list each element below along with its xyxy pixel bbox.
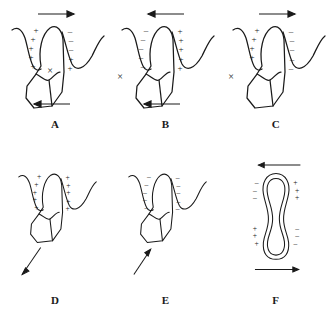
tooth-inner-line: [49, 80, 52, 106]
charge-column-left: –– –– –: [138, 25, 149, 71]
panel-label-a: A: [0, 118, 110, 130]
panel-e-drawing: –– –– – ––– ––: [110, 155, 220, 293]
tooth-inner-line: [270, 80, 273, 106]
tooth-inner-line: [159, 80, 162, 106]
tooth-inner-contour: [149, 212, 169, 219]
charge-quadrant-bottom-left: +++: [252, 223, 258, 247]
charge-column-right-upper: –––: [67, 26, 74, 54]
panel-label-f: F: [221, 294, 331, 306]
svg-text:+: +: [65, 204, 69, 213]
tooth-inner-line: [50, 218, 53, 240]
panel-d: ++ ++ + +++ ++ D: [0, 155, 110, 309]
charge-column-right-lower: ––: [287, 54, 294, 73]
svg-text:–: –: [144, 202, 149, 211]
svg-text:+: +: [179, 44, 184, 54]
arrow-down-left: [22, 247, 41, 274]
panel-c: ++ ++ ––– –– × C: [221, 0, 331, 155]
figure-container: ++ ++ + ––– ++ × A: [0, 0, 331, 309]
tooth-inner-line: [160, 218, 163, 240]
panel-f-drawing: ––– +++ +++ –––: [221, 155, 331, 293]
svg-text:–: –: [287, 63, 293, 73]
resorption-mark: ×: [118, 71, 124, 82]
svg-text:–: –: [252, 193, 257, 202]
charge-column-left: –– –– –: [142, 172, 151, 211]
svg-text:+: +: [67, 63, 72, 73]
arrow-right-top: [259, 11, 295, 17]
tooth-inner-contour: [257, 72, 281, 80]
tooth-inner-contour: [146, 72, 170, 80]
charge-column-right-upper: –––: [287, 26, 294, 54]
charge-column-right-upper: +++: [178, 26, 184, 54]
panel-a: ++ ++ + ––– ++ × A: [0, 0, 110, 155]
svg-text:–: –: [68, 44, 74, 54]
resorption-mark: ×: [228, 71, 234, 82]
tooth-inner-contour: [39, 212, 59, 219]
charge-quadrant-top-right: +++: [293, 178, 299, 202]
charge-column-left: ++ ++ +: [28, 25, 38, 71]
arrow-right-top: [38, 11, 74, 17]
charge-column-right-lower: ––: [175, 196, 181, 213]
svg-text:–: –: [292, 238, 297, 247]
svg-text:+: +: [30, 61, 35, 71]
panel-b: –– –– – +++ ++ × B: [110, 0, 220, 155]
panel-d-drawing: ++ ++ + +++ ++: [0, 155, 110, 293]
charge-column-left: ++ ++ +: [33, 172, 41, 211]
charge-column-right-lower: ++: [178, 54, 184, 73]
charge-column-left: ++ ++: [249, 25, 259, 62]
charge-column-right-upper: +++: [65, 173, 70, 197]
arrow-left-top: [148, 11, 184, 17]
root-inner-outline: [267, 178, 285, 255]
svg-text:–: –: [175, 204, 180, 213]
panel-label-b: B: [110, 118, 220, 130]
charge-quadrant-bottom-right: –––: [292, 223, 299, 247]
svg-text:+: +: [254, 238, 258, 247]
arrow-up-right: [134, 249, 151, 274]
svg-text:+: +: [178, 63, 183, 73]
svg-text:+: +: [34, 202, 38, 211]
svg-text:+: +: [295, 193, 299, 202]
panel-label-c: C: [221, 118, 331, 130]
charge-column-right-lower: ++: [65, 196, 70, 213]
charge-column-right-lower: ++: [67, 54, 73, 73]
svg-text:–: –: [140, 61, 146, 71]
panel-label-d: D: [0, 294, 110, 306]
resorption-mark: ×: [47, 65, 53, 76]
svg-text:–: –: [288, 44, 294, 54]
svg-text:+: +: [249, 52, 254, 62]
arrow-left-top: [258, 162, 300, 167]
charge-quadrant-top-left: –––: [252, 178, 259, 202]
panel-f: ––– +++ +++ ––– F: [221, 155, 331, 309]
arrow-right-bottom: [255, 266, 299, 271]
panel-e: –– –– – ––– –– E: [110, 155, 220, 309]
panel-label-e: E: [110, 294, 220, 306]
